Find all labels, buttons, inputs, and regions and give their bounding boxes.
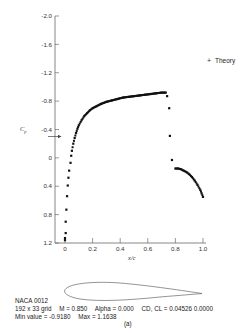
plus-marker-icon: + bbox=[207, 57, 211, 64]
panel-label: (a) bbox=[124, 320, 132, 327]
legend: + Theory bbox=[207, 57, 236, 65]
y-tick-label: 1.2 bbox=[43, 239, 52, 246]
data-point bbox=[71, 150, 73, 152]
data-point bbox=[202, 196, 204, 198]
cp-chart: -2.0-1.6-1.2-0.8-0.400.40.81.2 00.20.40.… bbox=[0, 0, 246, 333]
y-tick-label: -1.6 bbox=[41, 41, 52, 48]
data-point bbox=[65, 221, 67, 223]
y-axis-label: Cp bbox=[20, 125, 27, 134]
caption-max-value: Max = 1.1638 bbox=[78, 313, 116, 320]
y-tick-label: -0.8 bbox=[41, 97, 52, 104]
data-point bbox=[72, 146, 74, 148]
y-tick-label: -2.0 bbox=[41, 12, 52, 19]
data-point bbox=[65, 209, 67, 211]
data-point bbox=[74, 135, 76, 137]
caption-cd-cl: CD, CL = 0.04526 0.0000 bbox=[142, 305, 213, 312]
data-point bbox=[168, 107, 170, 109]
data-point bbox=[171, 159, 173, 161]
caption-min-value: Min value = -0.9180 bbox=[15, 313, 70, 320]
y-tick-label: 0.8 bbox=[43, 211, 52, 218]
data-point bbox=[67, 177, 69, 179]
data-point bbox=[64, 239, 66, 241]
y-axis-ticks: -2.0-1.6-1.2-0.8-0.400.40.81.2 bbox=[41, 12, 59, 246]
x-tick-label: 0 bbox=[63, 245, 67, 252]
y-tick-label: -0.4 bbox=[41, 126, 52, 133]
data-point bbox=[74, 137, 76, 139]
data-point bbox=[69, 162, 71, 164]
data-point bbox=[165, 92, 167, 94]
data-point bbox=[70, 155, 72, 157]
data-point bbox=[73, 140, 75, 142]
y-tick-label: -1.2 bbox=[41, 69, 52, 76]
data-point bbox=[65, 232, 67, 234]
data-point bbox=[76, 128, 78, 130]
caption-run-parameters: 192 x 33 grid M = 0.850 Alpha = 0.000 CD… bbox=[15, 305, 219, 312]
data-point bbox=[199, 189, 201, 191]
caption-min-max: Min value = -0.9180 Max = 1.1638 bbox=[15, 313, 123, 320]
x-tick-label: 1.0 bbox=[199, 245, 208, 252]
data-point bbox=[75, 132, 77, 134]
x-tick-label: 0.2 bbox=[88, 245, 97, 252]
data-point bbox=[72, 143, 74, 145]
x-tick-label: 0.6 bbox=[143, 245, 152, 252]
x-tick-label: 0.4 bbox=[116, 245, 125, 252]
data-point bbox=[76, 130, 78, 132]
data-point bbox=[66, 195, 68, 197]
legend-label-theory: Theory bbox=[215, 57, 236, 65]
y-tick-label: 0.4 bbox=[43, 182, 52, 189]
data-point bbox=[169, 135, 171, 137]
x-axis-label: x/c bbox=[127, 254, 136, 261]
airfoil-outline bbox=[65, 282, 202, 300]
data-point bbox=[166, 95, 168, 97]
caption-alpha: Alpha = 0.000 bbox=[95, 305, 134, 312]
data-point bbox=[201, 192, 203, 194]
caption-mach: M = 0.850 bbox=[59, 305, 87, 312]
y-tick-label: 0 bbox=[49, 154, 53, 161]
x-tick-label: 0.8 bbox=[171, 245, 180, 252]
caption-airfoil-name: NACA 0012 bbox=[15, 297, 48, 304]
x-axis-ticks: 00.20.40.60.81.0 bbox=[63, 238, 208, 252]
data-points bbox=[64, 92, 204, 242]
data-point bbox=[67, 184, 69, 186]
data-point bbox=[64, 237, 66, 239]
data-point bbox=[68, 170, 70, 172]
caption-grid: 192 x 33 grid bbox=[15, 305, 51, 312]
